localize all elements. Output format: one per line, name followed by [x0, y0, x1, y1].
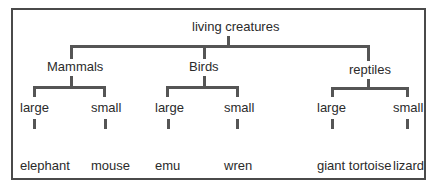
connector	[406, 119, 409, 129]
group-birds: Birds	[189, 60, 219, 73]
leaf-item: emu	[155, 159, 193, 173]
connector	[70, 76, 73, 86]
leaf-item: lizard	[393, 159, 428, 173]
birds-small: small	[224, 101, 254, 114]
leaf-item: wren	[224, 159, 303, 173]
mammals-small: small	[91, 101, 121, 114]
connector	[203, 45, 206, 59]
leaf-item: giant tortoise	[317, 159, 391, 173]
group-reptiles: reptiles	[349, 63, 391, 76]
connector	[331, 87, 334, 97]
connector	[70, 45, 73, 59]
connector	[406, 87, 409, 97]
connector	[367, 79, 370, 87]
connector	[167, 119, 170, 129]
connector	[203, 76, 206, 86]
connector	[104, 119, 107, 129]
connector	[166, 86, 239, 89]
leaf-list-birds-small: wren bee humming bird	[224, 132, 303, 188]
leaf-item: elephant	[20, 159, 70, 173]
leaf-list-reptiles-large: giant tortoise saltwater crocodile	[317, 132, 391, 188]
connector	[292, 45, 370, 48]
leaf-list-birds-large: emu ostrich	[155, 132, 193, 188]
leaf-item: mouse	[91, 159, 130, 173]
connector	[103, 86, 106, 97]
connector	[33, 119, 36, 129]
reptiles-large: large	[317, 101, 346, 114]
leaf-list-mammals-large: elephant hippo	[20, 132, 70, 188]
birds-large: large	[155, 101, 184, 114]
connector	[236, 119, 239, 129]
reptiles-small: small	[393, 101, 423, 114]
group-mammals: Mammals	[47, 60, 103, 73]
connector	[166, 86, 169, 97]
connector	[331, 119, 334, 129]
connector	[33, 86, 36, 97]
leaf-list-reptiles-small: lizard dwarf gecko	[393, 132, 428, 188]
connector	[236, 86, 239, 97]
connector	[33, 86, 106, 89]
root-node: living creatures	[192, 20, 279, 33]
connector	[331, 87, 409, 90]
mammals-large: large	[20, 101, 49, 114]
leaf-list-mammals-small: mouse shrew	[91, 132, 130, 188]
